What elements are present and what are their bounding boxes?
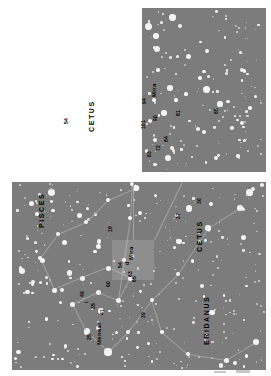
star-label-49: 49 <box>79 291 85 297</box>
star-label-18: 18 <box>107 226 113 232</box>
star-label-25: 25 <box>86 334 92 340</box>
star-label-81: 81 <box>175 110 181 116</box>
star-label-63: 63 <box>146 151 152 157</box>
star-label-menkar: Menkar <box>96 322 102 345</box>
star-label-65: 65 <box>131 276 137 282</box>
star-label-54: 54 <box>117 262 123 268</box>
star-label-mira: Mira <box>151 83 157 97</box>
constellation-label-cetus: CETUS <box>196 220 203 252</box>
star-label-60: 60 <box>105 281 111 287</box>
star-label-65: 65 <box>213 108 219 114</box>
star-label-84: 84 <box>163 136 169 142</box>
star-label-39: 39 <box>140 312 146 318</box>
constellation-label-eridanus: ERIDANUS <box>203 296 210 345</box>
star-label-101: 101 <box>140 120 146 129</box>
star-label-mira: Mira <box>128 246 134 260</box>
star-label-72: 72 <box>155 145 161 151</box>
star-label-37: 37 <box>175 213 181 219</box>
star-label-36: 36 <box>196 198 202 204</box>
star-label-54: 54 <box>63 118 69 124</box>
star-label-90: 90 <box>152 115 158 121</box>
star-label-d: d <box>124 262 130 265</box>
constellation-label-pisces: PISCES <box>38 193 45 228</box>
star-label-94: 94 <box>141 98 147 104</box>
star-chart-figure: CETUS54631019094Mira72848165PISCESCETUSE… <box>0 0 271 376</box>
label-layer: CETUS54631019094Mira72848165PISCESCETUSE… <box>0 0 271 376</box>
star-label-41: 41 <box>99 309 105 315</box>
star-label-35: 35 <box>90 303 96 309</box>
constellation-label-cetus: CETUS <box>88 100 95 132</box>
star-label-t: t <box>83 301 89 303</box>
